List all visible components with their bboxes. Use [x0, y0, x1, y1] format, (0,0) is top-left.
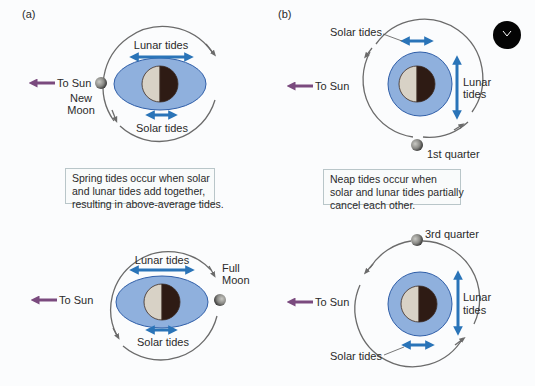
- caption-line: Neap tides occur when: [330, 173, 454, 186]
- to-sun-label: To Sun: [59, 294, 93, 306]
- orbit-arrow-icon: [209, 266, 214, 275]
- neap-first-quarter-diagram: Lunar tides Solar tides 1st quarter To S…: [291, 19, 491, 160]
- solar-tides-label: Solar tides: [330, 26, 382, 38]
- moon-label: 3rd quarter: [425, 228, 479, 240]
- earth-icon: [399, 66, 435, 102]
- panel-a-label: (a): [22, 8, 35, 20]
- orbit-arrow-icon: [206, 44, 214, 54]
- page-marker-icon: [493, 21, 521, 49]
- lunar-tides-label: Lunar tides: [134, 39, 189, 51]
- moon-label: Moon: [67, 104, 95, 116]
- neap-third-quarter-diagram: Lunar tides Solar tides 3rd quarter To S…: [291, 228, 491, 367]
- earth-icon: [144, 284, 180, 320]
- full-moon-icon: [214, 294, 226, 306]
- spring-new-moon-diagram: Lunar tides Solar tides New Moon To Sun: [33, 27, 215, 142]
- caption-line: and lunar tides add together,: [72, 185, 208, 198]
- solar-tides-label: Solar tides: [136, 122, 188, 134]
- to-sun-label: To Sun: [315, 296, 349, 308]
- earth-icon: [142, 66, 178, 102]
- first-quarter-moon-icon: [411, 139, 423, 151]
- caption-line: solar and lunar tides partially: [330, 186, 454, 199]
- caption-line: cancel each other.: [330, 199, 454, 212]
- lunar-tides-label: Lunar: [463, 291, 491, 303]
- panel-b-label: (b): [278, 8, 291, 20]
- caption-line: resulting in above-average tides.: [72, 198, 208, 211]
- solar-tides-label: Solar tides: [137, 336, 189, 348]
- earth-icon: [401, 286, 437, 322]
- lunar-tides-label: tides: [463, 304, 487, 316]
- moon-label: 1st quarter: [427, 148, 480, 160]
- spring-full-moon-diagram: Lunar tides Solar tides Full Moon To Sun: [35, 252, 250, 360]
- caption-line: Spring tides occur when solar: [72, 172, 208, 185]
- moon-label: Moon: [222, 274, 250, 286]
- to-sun-label: To Sun: [57, 77, 91, 89]
- orbit-arrow-icon: [366, 264, 373, 272]
- orbit-path-lower: [423, 122, 468, 137]
- spring-tides-caption: Spring tides occur when solar and lunar …: [65, 168, 215, 204]
- orbit-arrow-icon: [113, 328, 118, 337]
- lunar-tides-label: tides: [463, 88, 487, 100]
- moon-label: New: [70, 92, 92, 104]
- third-quarter-moon-icon: [411, 234, 423, 246]
- orbit-path: [370, 241, 411, 268]
- lunar-tides-label: Lunar tides: [135, 254, 190, 266]
- neap-tides-caption: Neap tides occur when solar and lunar ti…: [323, 169, 461, 205]
- solar-tides-leader: [383, 34, 402, 41]
- new-moon-icon: [95, 77, 107, 89]
- solar-tides-leader: [384, 347, 404, 355]
- moon-label: Full: [222, 262, 240, 274]
- lunar-tides-label: Lunar: [463, 76, 491, 88]
- solar-tides-label: Solar tides: [330, 350, 382, 362]
- to-sun-label: To Sun: [315, 80, 349, 92]
